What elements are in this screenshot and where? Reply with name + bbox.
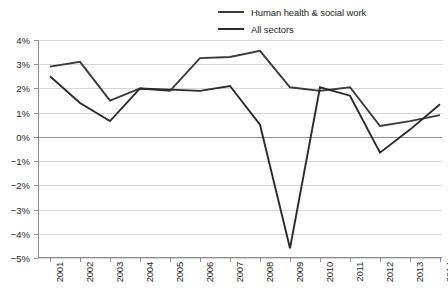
y-tick-label: −3% (0, 204, 30, 215)
y-tick-label: −5% (0, 253, 30, 264)
chart-legend: Human health & social work All sectors (218, 4, 446, 38)
x-axis-labels: 2001200220032004200520062007200820092010… (38, 258, 442, 297)
y-axis-labels: 4%3%2%1%0%−1%−2%−3%−4%−5% (38, 40, 442, 258)
y-tick-label: −2% (0, 180, 30, 191)
x-tick-label: 2008 (264, 262, 275, 282)
legend-label-health: Human health & social work (251, 7, 366, 18)
x-tick-label: 2003 (114, 262, 125, 282)
y-tick-label: 4% (0, 35, 30, 46)
legend-label-all-sectors: All sectors (251, 24, 294, 35)
y-tick-label: 2% (0, 83, 30, 94)
chart-figure: Human health & social work All sectors 4… (0, 0, 448, 297)
x-tick-label: 2011 (354, 262, 365, 282)
x-tick-label: 2006 (204, 262, 215, 282)
legend-swatch-all-sectors (218, 28, 244, 30)
x-tick-label: 2005 (174, 262, 185, 282)
x-tick-label: 2001 (54, 262, 65, 282)
legend-item-all-sectors: All sectors (218, 21, 446, 37)
legend-item-health: Human health & social work (218, 4, 446, 20)
y-tick-label: 3% (0, 59, 30, 70)
y-tick-label: −4% (0, 228, 30, 239)
x-tick-label: 2014 (444, 262, 448, 282)
x-tick-label: 2012 (384, 262, 395, 282)
legend-swatch-health (218, 11, 244, 13)
y-tick-label: 0% (0, 131, 30, 142)
y-tick-label: −1% (0, 156, 30, 167)
y-tick-label: 1% (0, 107, 30, 118)
x-tick-label: 2004 (144, 262, 155, 282)
x-tick-label: 2009 (294, 262, 305, 282)
x-tick-label: 2010 (324, 262, 335, 282)
x-tick-label: 2013 (414, 262, 425, 282)
x-tick-label: 2007 (234, 262, 245, 282)
x-tick-label: 2002 (84, 262, 95, 282)
